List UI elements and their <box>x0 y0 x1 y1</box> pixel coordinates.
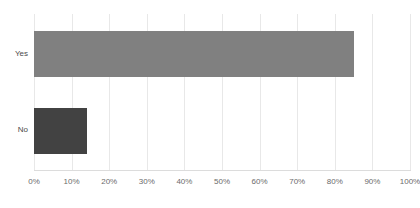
category-label-yes: Yes <box>0 49 28 59</box>
x-tick-label: 0% <box>28 177 40 187</box>
x-tick-label: 60% <box>252 177 268 187</box>
bar-no[interactable] <box>34 108 87 154</box>
gridline <box>372 14 373 170</box>
x-tick-label: 30% <box>139 177 155 187</box>
gridline <box>410 14 411 170</box>
x-tick-label: 90% <box>364 177 380 187</box>
x-tick-label: 100% <box>400 177 420 187</box>
x-axis-line <box>34 170 411 171</box>
x-tick-label: 10% <box>64 177 80 187</box>
x-tick-label: 40% <box>176 177 192 187</box>
x-tick-label: 70% <box>289 177 305 187</box>
bar-yes[interactable] <box>34 31 354 77</box>
x-tick-label: 80% <box>327 177 343 187</box>
category-label-no: No <box>0 125 28 135</box>
x-tick-label: 50% <box>214 177 230 187</box>
plot-area <box>34 14 410 170</box>
x-tick-label: 20% <box>101 177 117 187</box>
